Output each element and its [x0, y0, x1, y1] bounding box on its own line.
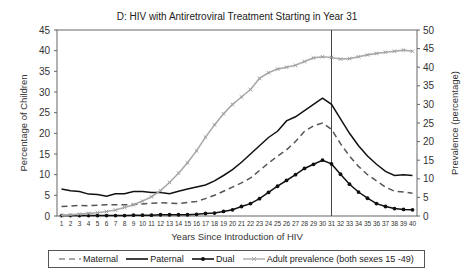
- cross-line-icon: [243, 255, 265, 263]
- x-tick-label: 2: [69, 220, 73, 227]
- legend-label-dual: Dual: [216, 254, 235, 264]
- legend-label-paternal: Paternal: [150, 254, 184, 264]
- legend-item-paternal: Paternal: [126, 254, 184, 264]
- data-point: [123, 214, 127, 218]
- x-tick-label: 9: [132, 220, 136, 227]
- data-point: [240, 205, 244, 209]
- data-point: [249, 202, 253, 206]
- x-tick-label: 7: [114, 220, 118, 227]
- y-tick-label: 5: [44, 190, 50, 201]
- legend-label-adult-prevalence: Adult prevalence (both sexes 15 -49): [267, 254, 414, 264]
- hiv-orphans-chart: D: HIV with Antiretroviral Treatment Sta…: [0, 0, 475, 250]
- chart-title: D: HIV with Antiretroviral Treatment Sta…: [117, 11, 358, 22]
- x-tick-label: 16: [193, 220, 201, 227]
- x-tick-label: 31: [328, 220, 336, 227]
- x-axis-label: Years Since Introduction of HIV: [171, 231, 303, 242]
- plot-area: [57, 30, 417, 216]
- y-tick-label: 15: [39, 149, 51, 160]
- data-point: [339, 172, 343, 176]
- data-point: [384, 205, 388, 209]
- data-point: [294, 173, 298, 177]
- x-tick-label: 23: [256, 220, 264, 227]
- y2-tick-label: 5: [423, 192, 429, 203]
- y-tick-label: 40: [39, 45, 51, 56]
- data-point: [105, 214, 109, 218]
- data-point: [195, 212, 199, 216]
- data-point: [204, 212, 208, 216]
- y2-tick-label: 0: [423, 211, 429, 222]
- y-tick-label: 30: [39, 87, 51, 98]
- y2-tick-label: 35: [423, 80, 435, 91]
- data-point: [159, 213, 163, 217]
- dashed-line-icon: [59, 255, 81, 263]
- data-point: [348, 182, 352, 186]
- data-point: [285, 179, 289, 183]
- x-tick-label: 17: [202, 220, 210, 227]
- x-tick-label: 24: [265, 220, 273, 227]
- data-point: [222, 210, 226, 214]
- data-point: [132, 213, 136, 217]
- data-point: [150, 213, 154, 217]
- y2-tick-label: 25: [423, 118, 435, 129]
- y2-tick-label: 40: [423, 62, 435, 73]
- x-tick-label: 18: [211, 220, 219, 227]
- y2-tick-label: 45: [423, 43, 435, 54]
- data-point: [213, 211, 217, 215]
- y2-tick-label: 20: [423, 136, 435, 147]
- chart-legend: Maternal Paternal Dual Adult prevalence …: [48, 250, 425, 268]
- y-tick-label: 10: [39, 169, 51, 180]
- x-tick-label: 1: [60, 220, 64, 227]
- x-tick-label: 13: [166, 220, 174, 227]
- legend-label-maternal: Maternal: [83, 254, 118, 264]
- x-tick-label: 28: [301, 220, 309, 227]
- data-point: [357, 190, 361, 194]
- legend-item-adult-prevalence: Adult prevalence (both sexes 15 -49): [243, 254, 414, 264]
- data-point: [402, 207, 406, 211]
- data-point: [177, 213, 181, 217]
- x-tick-label: 25: [274, 220, 282, 227]
- x-tick-label: 22: [247, 220, 255, 227]
- data-point: [303, 167, 307, 171]
- x-tick-label: 4: [87, 220, 91, 227]
- y-tick-label: 45: [39, 25, 51, 36]
- data-point: [231, 208, 235, 212]
- x-tick-label: 3: [78, 220, 82, 227]
- x-tick-label: 20: [229, 220, 237, 227]
- data-point: [366, 196, 370, 200]
- x-tick-label: 10: [139, 220, 147, 227]
- x-tick-label: 6: [105, 220, 109, 227]
- y2-tick-label: 30: [423, 99, 435, 110]
- x-tick-label: 34: [355, 220, 363, 227]
- data-point: [330, 162, 334, 166]
- data-point: [267, 191, 271, 195]
- y2-tick-label: 50: [423, 25, 435, 36]
- data-point: [375, 202, 379, 206]
- data-point: [312, 162, 316, 166]
- x-tick-label: 37: [382, 220, 390, 227]
- x-tick-label: 14: [175, 220, 183, 227]
- x-tick-label: 5: [96, 220, 100, 227]
- data-point: [321, 158, 325, 162]
- data-point: [114, 214, 118, 218]
- legend-item-maternal: Maternal: [59, 254, 118, 264]
- data-point: [276, 184, 280, 188]
- x-tick-label: 8: [123, 220, 127, 227]
- y2-tick-label: 10: [423, 173, 435, 184]
- data-point: [411, 208, 415, 212]
- x-tick-label: 15: [184, 220, 192, 227]
- y-tick-label: 35: [39, 66, 51, 77]
- data-point: [393, 207, 397, 211]
- legend-item-dual: Dual: [192, 254, 235, 264]
- x-tick-label: 33: [346, 220, 354, 227]
- y2-axis-label: Prevalence (percentage): [449, 71, 460, 175]
- x-tick-label: 39: [400, 220, 408, 227]
- x-tick-label: 38: [391, 220, 399, 227]
- dot-line-icon: [192, 255, 214, 263]
- data-point: [141, 213, 145, 217]
- y-tick-label: 0: [44, 211, 50, 222]
- series-line: [62, 50, 413, 215]
- x-tick-label: 32: [337, 220, 345, 227]
- y-axis-label: Percentage of Children: [18, 74, 29, 171]
- x-tick-label: 26: [283, 220, 291, 227]
- x-tick-label: 27: [292, 220, 300, 227]
